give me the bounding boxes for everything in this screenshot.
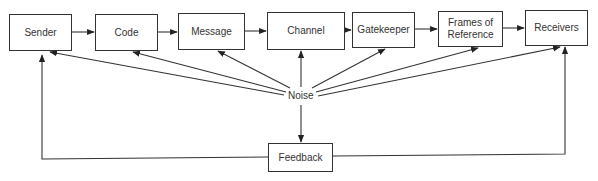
node-frames-of-reference: Frames of Reference: [438, 11, 503, 47]
node-channel: Channel: [267, 12, 345, 50]
node-code: Code: [95, 14, 158, 51]
node-message: Message: [178, 13, 245, 50]
node-feedback: Feedback: [268, 143, 333, 172]
node-noise: Noise: [286, 90, 316, 101]
node-receivers: Receivers: [525, 10, 588, 46]
node-gatekeeper: Gatekeeper: [352, 12, 415, 48]
node-sender: Sender: [9, 14, 72, 51]
